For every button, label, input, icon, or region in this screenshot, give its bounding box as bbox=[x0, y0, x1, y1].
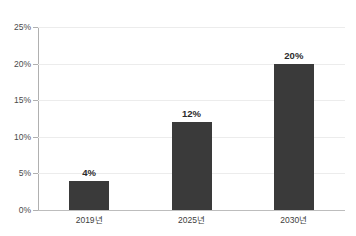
bar-value-label: 20% bbox=[264, 51, 324, 61]
x-tick-label: 2030년 bbox=[254, 216, 334, 225]
y-tick-label: 5% bbox=[0, 169, 31, 178]
x-tick-label: 2025년 bbox=[152, 216, 232, 225]
y-tick-mark bbox=[33, 210, 38, 211]
y-tick-label: 10% bbox=[0, 133, 31, 142]
y-tick-label: 25% bbox=[0, 23, 31, 32]
y-tick-mark bbox=[33, 173, 38, 174]
y-tick-mark bbox=[33, 137, 38, 138]
y-tick-mark bbox=[33, 64, 38, 65]
y-tick-label: 0% bbox=[0, 206, 31, 215]
y-tick-label: 20% bbox=[0, 59, 31, 68]
gridline bbox=[38, 27, 345, 28]
bar bbox=[172, 122, 212, 210]
bar-value-label: 12% bbox=[162, 109, 222, 119]
bar-value-label: 4% bbox=[59, 168, 119, 178]
bar bbox=[274, 64, 314, 210]
x-tick-label: 2019년 bbox=[49, 216, 129, 225]
bar-chart: 0%5%10%15%20%25% 4%12%20% 2019년2025년2030… bbox=[0, 0, 356, 236]
axis-baseline bbox=[38, 210, 345, 211]
y-tick-mark bbox=[33, 27, 38, 28]
y-tick-label: 15% bbox=[0, 96, 31, 105]
bar bbox=[69, 181, 109, 210]
y-tick-mark bbox=[33, 100, 38, 101]
